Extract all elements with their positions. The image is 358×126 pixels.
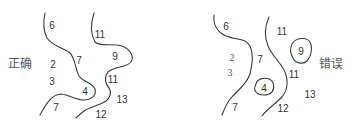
label-4: 4 <box>82 86 88 97</box>
label-11-upper: 11 <box>277 26 288 37</box>
label-11-lower: 11 <box>289 69 300 80</box>
label-2: 2 <box>230 52 235 63</box>
label-6: 6 <box>49 20 55 31</box>
label-9: 9 <box>298 46 304 57</box>
label-7-upper: 7 <box>76 55 82 66</box>
label-12: 12 <box>277 103 289 114</box>
label-7-lower: 7 <box>232 102 238 113</box>
correct-contour-diagram: 正确 6 2 3 7 4 7 11 9 11 13 12 <box>8 13 132 120</box>
contour-line-left-b <box>214 15 252 115</box>
label-7-upper: 7 <box>257 54 263 65</box>
label-11-upper: 11 <box>95 29 106 40</box>
wrong-contour-diagram: 错误 6 2 3 7 4 7 11 9 11 13 12 <box>214 15 343 116</box>
label-3: 3 <box>49 76 55 87</box>
label-4: 4 <box>261 83 267 94</box>
label-7-lower: 7 <box>53 102 59 113</box>
label-11-lower: 11 <box>108 74 119 85</box>
label-2: 2 <box>50 59 56 70</box>
caption-wrong: 错误 <box>319 57 343 71</box>
label-13: 13 <box>116 94 128 105</box>
label-9: 9 <box>112 51 118 62</box>
caption-correct: 正确 <box>8 57 32 71</box>
contour-comparison-figure: 正确 6 2 3 7 4 7 11 9 11 13 12 错误 6 2 3 7 … <box>0 0 358 126</box>
label-3: 3 <box>228 67 233 78</box>
label-6: 6 <box>223 21 229 32</box>
label-13: 13 <box>304 89 316 100</box>
label-12: 12 <box>95 109 107 120</box>
